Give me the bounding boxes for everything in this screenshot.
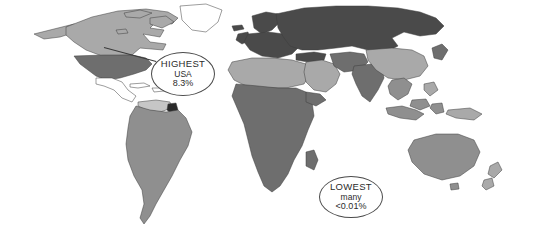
region-hudson-bay-island — [116, 29, 128, 34]
callout-lowest: LOWEST many <0.01% — [319, 176, 383, 218]
region-tasmania — [450, 183, 459, 190]
callout-highest: HIGHEST USA 8.3% — [151, 52, 215, 96]
world-map-graphic — [0, 0, 533, 244]
callout-highest-value: 8.3% — [173, 79, 194, 89]
world-choropleth-map: HIGHEST USA 8.3% LOWEST many <0.01% — [0, 0, 533, 244]
callout-lowest-value: <0.01% — [336, 202, 367, 212]
